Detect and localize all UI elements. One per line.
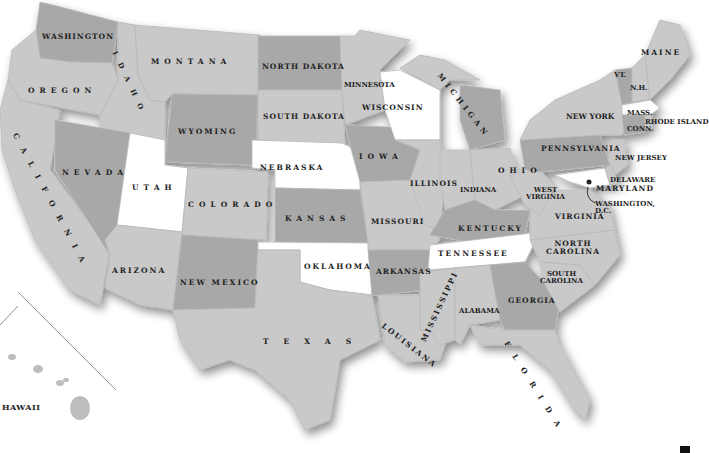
label-delaware: DELAWARE	[610, 176, 655, 183]
label-missouri: MISSOURI	[371, 218, 424, 226]
label-texas: TEXAS	[263, 338, 366, 346]
state-new-mexico	[173, 235, 258, 310]
label-hawaii: HAWAII	[2, 402, 41, 412]
label-north-dakota: NORTH DAKOTA	[262, 63, 345, 71]
label-oregon: OREGON	[28, 87, 96, 95]
label-nevada: NEVADA	[62, 169, 128, 177]
label-maine: MAINE	[641, 49, 681, 57]
label-north-carolina-line2: CAROLINA	[546, 247, 600, 256]
label-illinois: ILLINOIS	[410, 180, 458, 188]
label-tennessee: TENNESSEE	[438, 250, 509, 258]
label-north-carolina: NORTHCAROLINA	[546, 240, 600, 255]
label-mass: MASS.	[627, 109, 652, 116]
label-utah: UTAH	[132, 184, 177, 192]
label-south-carolina-line2: CAROLINA	[540, 276, 583, 285]
label-oklahoma: OKLAHOMA	[304, 263, 372, 271]
label-new-york: NEW YORK	[566, 113, 614, 121]
label-indiana: INDIANA	[460, 186, 496, 193]
label-south-carolina: SOUTHCAROLINA	[540, 270, 583, 284]
label-alabama: ALABAMA	[459, 307, 499, 314]
label-arizona: ARIZONA	[112, 267, 166, 275]
label-pennsylvania: PENNSYLVANIA	[541, 145, 620, 153]
label-conn: CONN.	[627, 125, 653, 132]
state-maine	[645, 20, 690, 100]
label-iowa: IOWA	[359, 153, 403, 161]
label-wisconsin: WISCONSIN	[362, 104, 424, 112]
label-montana: MONTANA	[151, 58, 231, 66]
inset-divider-line-short	[0, 306, 18, 325]
label-new-mexico: NEW MEXICO	[180, 279, 259, 287]
label-washington-dc: WASHINGTON,D.C.	[595, 200, 655, 214]
label-south-dakota: SOUTH DAKOTA	[263, 113, 345, 121]
label-minnesota: MINNESOTA	[344, 81, 395, 88]
label-ohio: OHIO	[498, 167, 542, 175]
label-new-jersey: NEW JERSEY	[615, 154, 667, 161]
label-rhode-island: RHODE ISLAND	[645, 118, 709, 125]
label-maryland: MARYLAND	[596, 185, 654, 193]
label-wyoming: WYOMING	[178, 128, 237, 136]
label-arkansas: ARKANSAS	[376, 268, 432, 276]
label-kentucky: KENTUCKY	[458, 225, 523, 233]
dc-marker-icon	[587, 180, 592, 185]
label-nh: N.H.	[630, 84, 647, 91]
label-west-virginia: WESTVIRGINIA	[526, 186, 565, 200]
inset-divider-line	[18, 292, 116, 390]
label-georgia: GEORGIA	[508, 297, 556, 305]
label-vt: VT.	[614, 71, 626, 78]
state-new-york	[520, 70, 630, 140]
label-colorado: COLORADO	[188, 201, 277, 209]
corner-mark	[680, 446, 690, 453]
label-nebraska: NEBRASKA	[260, 164, 324, 172]
label-kansas: KANSAS	[285, 215, 351, 223]
label-dc-line2: D.C.	[595, 206, 611, 215]
label-west-virginia-line2: VIRGINIA	[526, 192, 565, 201]
label-washington: WASHINGTON	[42, 33, 114, 41]
